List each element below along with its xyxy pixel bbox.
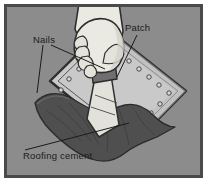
- nail: [127, 59, 131, 63]
- callout-label-nails: Nails: [33, 34, 55, 45]
- nail: [59, 88, 63, 92]
- callout-label-roofing-cement: Roofing cement: [23, 150, 92, 161]
- nail: [167, 91, 171, 95]
- nail: [158, 102, 162, 106]
- nail: [67, 77, 71, 81]
- nail: [147, 75, 151, 79]
- nail: [137, 67, 141, 71]
- illustration-frame: Nails Patch Roofing cement: [4, 4, 203, 178]
- nail: [157, 83, 161, 87]
- callout-label-patch: Patch: [125, 22, 150, 33]
- figure-root: Nails Patch Roofing cement: [0, 0, 207, 182]
- roof-repair-illustration: Nails Patch Roofing cement: [7, 7, 200, 175]
- hand-holding-trowel: [74, 7, 124, 78]
